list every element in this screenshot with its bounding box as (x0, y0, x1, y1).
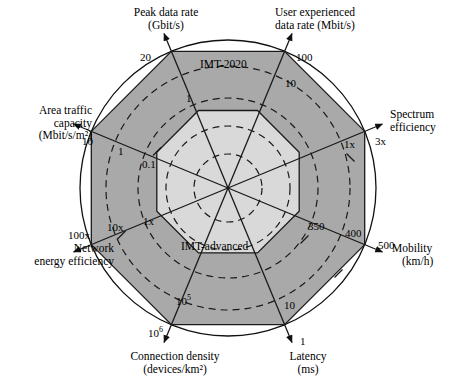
connection-line1: Connection density (130, 350, 219, 362)
tick-area-inner: 0.1 (142, 159, 156, 170)
tick-latency-outer: 1 (300, 336, 306, 347)
tick-energy-outer: 100x (68, 230, 90, 241)
tick-connection-outer: 106 (148, 324, 163, 339)
tick-connection-inner: 105 (176, 292, 191, 307)
radar-chart-figure: Peak data rate (Gbit/s) User experienced… (0, 0, 460, 387)
axis-label-user-experienced-data-rate: User experienced data rate (Mbit/s) (245, 6, 385, 31)
spectrum-line2: efficiency (390, 121, 436, 133)
tick-latency-inner: 10 (284, 300, 295, 311)
axis-label-area-traffic-capacity: Area traffic capacity (Mbit/s/m²) (0, 104, 92, 142)
tick-spectrum-inner: 1x (344, 139, 355, 150)
axis-label-connection-density: Connection density (devices/km²) (104, 350, 246, 375)
tick-mobility-inner: 350 (308, 221, 325, 232)
axis-label-latency: Latency (ms) (268, 350, 348, 375)
area-line1: Area traffic (39, 104, 92, 116)
tick-peak-inner: 1 (186, 93, 192, 104)
tick-peak-outer: 20 (140, 52, 151, 63)
user-rate-line1: User experienced (275, 6, 355, 18)
tick-mobility-outer: 500 (378, 240, 395, 251)
tick-area-mid: 1 (118, 146, 124, 157)
user-rate-line2: data rate (Mbit/s) (275, 19, 355, 31)
mobility-line2: (km/h) (402, 255, 433, 268)
tick-spectrum-outer: 3x (375, 136, 386, 147)
tick-user-inner: 10 (285, 78, 296, 89)
tick-area-outer: 10 (82, 136, 93, 147)
energy-line2: energy efficiency (34, 255, 114, 267)
axis-label-network-energy-efficiency: Network energy efficiency (2, 242, 114, 267)
connection-inner-base: 10 (176, 295, 187, 307)
peak-data-rate-line2: (Gbit/s) (148, 19, 184, 31)
tick-mobility-mid: 400 (345, 228, 362, 239)
tick-user-outer: 100 (296, 52, 313, 63)
latency-line1: Latency (289, 350, 326, 362)
connection-outer-exp: 6 (159, 325, 163, 334)
tick-energy-mid: 10x (107, 222, 124, 233)
area-line2: capacity (54, 117, 92, 129)
axis-label-spectrum-efficiency: Spectrum efficiency (390, 108, 460, 133)
connection-outer-base: 10 (148, 327, 159, 339)
connection-line2: (devices/km²) (143, 363, 206, 375)
connection-inner-exp: 5 (187, 293, 191, 302)
spectrum-line1: Spectrum (390, 108, 434, 120)
imt-2020-label: IMT-2020 (200, 58, 247, 70)
energy-line1: Network (74, 242, 114, 254)
axis-label-peak-data-rate: Peak data rate (Gbit/s) (110, 6, 222, 31)
axis-label-mobility: Mobility (km/h) (392, 242, 460, 267)
tick-energy-inner: 1x (143, 216, 154, 227)
imt-advanced-label: IMT-advanced (181, 240, 248, 252)
latency-line2: (ms) (297, 363, 318, 375)
peak-data-rate-line1: Peak data rate (134, 6, 199, 18)
mobility-line1: Mobility (392, 242, 432, 254)
imt-advanced-polygon (157, 111, 299, 253)
